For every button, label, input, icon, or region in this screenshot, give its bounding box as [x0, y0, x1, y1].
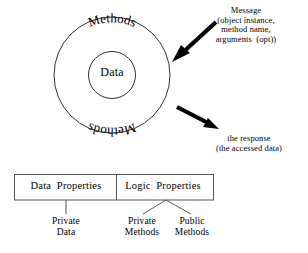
connector-logic-properties — [143, 200, 191, 214]
message-arrow — [172, 22, 216, 62]
leaf-label-private-methods: Private Methods — [125, 216, 159, 238]
outer-label-methods-top-text: Methods — [86, 10, 139, 30]
box-label-data-properties: Data Properties — [31, 180, 102, 192]
response-annotation-text: the response (the accessed data) — [216, 134, 282, 153]
inner-circle-label: Data — [100, 66, 123, 79]
outer-label-methods-bottom: Methods — [85, 120, 138, 140]
object-model-diagram: Methods Methods Data — [0, 0, 308, 253]
leaf-label-private-data: Private Data — [52, 216, 80, 238]
leaf-label-public-methods: Public Methods — [175, 216, 209, 238]
box-label-logic-properties: Logic Properties — [125, 180, 201, 192]
message-annotation-text: Message (object instance, method name, a… — [216, 6, 277, 44]
response-arrow — [177, 107, 219, 129]
outer-label-methods-bottom-text: Methods — [85, 120, 138, 140]
outer-label-methods-top: Methods — [86, 10, 139, 30]
